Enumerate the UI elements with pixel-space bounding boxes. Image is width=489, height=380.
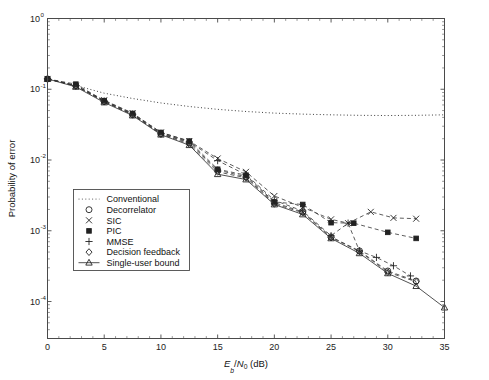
y-tick-label: 10 — [30, 226, 40, 236]
x-tick-label: 0 — [45, 342, 50, 352]
legend-label: Decorrelator — [107, 205, 157, 215]
x-tick-label: 20 — [269, 342, 279, 352]
x-tick-label: 25 — [326, 342, 336, 352]
y-tick-label-exponent: -3 — [41, 223, 47, 230]
legend-label: PIC — [107, 226, 123, 236]
legend-label: Conventional — [107, 194, 160, 204]
marker-square-filled — [300, 202, 305, 207]
marker-square-filled — [414, 236, 419, 241]
legend-label: SIC — [107, 216, 123, 226]
x-tick-label: 15 — [213, 342, 223, 352]
x-tick-label: 10 — [156, 342, 166, 352]
marker-square-filled — [329, 220, 334, 225]
y-tick-label: 10 — [30, 297, 40, 307]
y-axis-label: Probability of error — [6, 140, 17, 218]
chart-canvas: 0510152025303510010-110-210-310-4 Eb/N0 … — [0, 0, 489, 380]
x-tick-label: 30 — [383, 342, 393, 352]
y-tick-label: 10 — [30, 84, 40, 94]
legend-label: Single-user bound — [107, 258, 180, 268]
y-tick-label: 10 — [30, 155, 40, 165]
x-tick-label: 5 — [102, 342, 107, 352]
legend-label: MMSE — [107, 237, 134, 247]
y-tick-label-exponent: 0 — [41, 11, 45, 18]
y-tick-label-exponent: -4 — [41, 294, 47, 301]
y-tick-label-exponent: -2 — [41, 152, 47, 159]
chart-legend: ConventionalDecorrelatorSICPICMMSEDecisi… — [74, 190, 190, 271]
marker-square-filled — [351, 221, 356, 226]
chart-figure: 0510152025303510010-110-210-310-4 Eb/N0 … — [0, 0, 489, 380]
marker-square-filled — [385, 230, 390, 235]
y-tick-label: 10 — [30, 14, 40, 24]
x-tick-label: 35 — [439, 342, 449, 352]
legend-marker-square-filled — [87, 229, 92, 234]
legend-label: Decision feedback — [107, 247, 181, 257]
y-tick-label-exponent: -1 — [41, 82, 47, 89]
